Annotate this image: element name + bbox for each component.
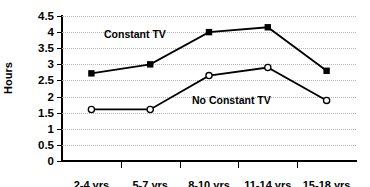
- series-label-no-constant-tv: No Constant TV: [192, 94, 271, 106]
- y-tick-label: 2: [48, 91, 54, 103]
- y-tick-label: 0: [48, 155, 54, 167]
- x-tick-label: 2-4 yrs: [74, 179, 109, 187]
- series-label-constant-tv: Constant TV: [104, 28, 166, 40]
- x-tick-label: 5-7 yrs: [132, 179, 167, 187]
- x-tick-label: 8-10 yrs: [188, 179, 230, 187]
- plot-area: 00.511.522.533.544.5 2-4 yrs5-7 yrs8-10 …: [62, 16, 356, 161]
- data-point-marker-square: [88, 70, 94, 76]
- data-point-marker-circle: [147, 106, 153, 112]
- y-tick-label: 3: [48, 58, 54, 70]
- y-tick-label: 2.5: [38, 74, 54, 86]
- y-tick-mark: [57, 161, 62, 162]
- x-tick-mark: [121, 161, 122, 168]
- data-point-marker-circle: [88, 106, 94, 112]
- data-point-marker-square: [147, 61, 153, 67]
- y-axis-title: Hours: [2, 48, 14, 108]
- y-tick-label: 1.5: [38, 107, 54, 119]
- y-tick-label: 4: [48, 26, 54, 38]
- x-tick-label: 15-18 yrs: [303, 179, 351, 187]
- y-tick-label: 4.5: [38, 10, 54, 22]
- data-point-marker-square: [265, 24, 271, 30]
- x-tick-label: 11-14 yrs: [244, 179, 291, 187]
- x-tick-mark: [180, 161, 181, 168]
- x-tick-mark: [297, 161, 298, 168]
- data-point-marker-circle: [265, 64, 271, 70]
- line-chart: Hours 00.511.522.533.544.5 2-4 yrs5-7 yr…: [0, 0, 370, 187]
- y-tick-label: 1: [48, 123, 54, 135]
- x-tick-mark: [238, 161, 239, 168]
- data-point-marker-circle: [206, 73, 212, 79]
- data-point-marker-circle: [324, 97, 330, 103]
- data-point-marker-square: [323, 68, 329, 74]
- data-point-marker-square: [206, 29, 212, 35]
- y-tick-label: 0.5: [38, 139, 54, 151]
- y-tick-label: 3.5: [38, 42, 54, 54]
